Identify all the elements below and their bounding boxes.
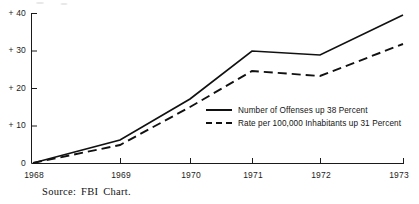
y-tick-label-10: + 10 — [2, 120, 26, 130]
y-tick-label-30: + 30 — [2, 45, 26, 55]
source-note: Source: FBI Chart. — [42, 186, 131, 197]
legend-dashed-line-icon — [206, 119, 232, 127]
y-tick-label-40: + 40 — [2, 8, 26, 18]
x-axis-ticks — [121, 158, 404, 164]
x-tick-label-1973: 1973 — [379, 170, 419, 180]
x-tick-label-1971: 1971 — [233, 170, 273, 180]
legend-entry-rate-per-100000: Rate per 100,000 Inhabitants up 31 Perce… — [206, 117, 414, 129]
y-axis-ticks — [32, 14, 38, 127]
legend-label-rate-per-100000: Rate per 100,000 Inhabitants up 31 Perce… — [238, 119, 401, 128]
x-tick-label-1968: 1968 — [14, 170, 54, 180]
y-tick-label-20: + 20 — [2, 83, 26, 93]
legend-solid-line-icon — [206, 106, 232, 114]
legend-entry-number-of-offenses: Number of Offenses up 38 Percent — [206, 104, 414, 116]
chart-legend: Number of Offenses up 38 Percent Rate pe… — [206, 104, 414, 130]
x-tick-label-1969: 1969 — [101, 170, 141, 180]
y-tick-label-0: 0 — [2, 158, 26, 168]
x-tick-label-1972: 1972 — [301, 170, 341, 180]
legend-label-number-of-offenses: Number of Offenses up 38 Percent — [238, 106, 368, 115]
x-tick-label-1970: 1970 — [171, 170, 211, 180]
line-chart-figure: + 40 + 30 + 20 + 10 0 1968 1969 1970 197… — [0, 0, 419, 204]
series-line-number-of-offenses — [33, 15, 403, 163]
